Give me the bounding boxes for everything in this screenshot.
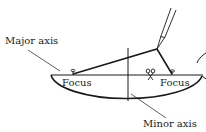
string xyxy=(73,49,172,74)
focus-right-label: Focus xyxy=(160,78,190,88)
minor-axis-label: Minor axis xyxy=(143,119,197,129)
focus-left-label: Focus xyxy=(62,78,92,88)
major-axis-leader xyxy=(28,50,60,71)
major-axis-label: Major axis xyxy=(5,36,58,46)
pencil-icon xyxy=(157,8,176,49)
ellipse-diagram xyxy=(0,0,206,132)
ellipse-outline xyxy=(197,39,206,93)
